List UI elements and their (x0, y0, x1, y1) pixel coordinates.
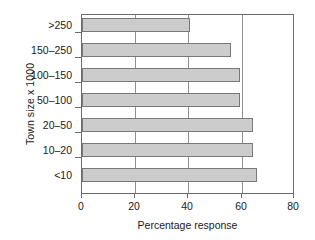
bar (82, 68, 240, 82)
y-tick-label: 50–100 (37, 93, 72, 107)
x-tick-label: 40 (167, 200, 207, 212)
plot-area (81, 14, 294, 194)
bar (82, 93, 240, 107)
x-tick-label: 60 (221, 200, 261, 212)
x-axis-tick (187, 194, 188, 198)
y-tick-label: 10–20 (43, 143, 72, 157)
x-axis-tick (81, 194, 82, 198)
bar-chart-figure: Town size x 1000 >250 150–250 100–150 50… (0, 0, 315, 240)
x-axis-title: Percentage response (81, 219, 294, 231)
bar (82, 143, 253, 157)
x-axis-tick (134, 194, 135, 198)
x-tick-label: 80 (273, 200, 313, 212)
x-axis-tick (293, 194, 294, 198)
bar (82, 118, 253, 132)
y-tick-label: 100–150 (31, 68, 72, 82)
y-tick-label: <10 (54, 168, 72, 182)
x-tick-label: 20 (114, 200, 154, 212)
y-tick-label: 20–50 (43, 118, 72, 132)
y-tick-label: 150–250 (31, 43, 72, 57)
gridline-60 (242, 15, 243, 193)
bar (82, 43, 231, 57)
y-axis-tick-labels: >250 150–250 100–150 50–100 20–50 10–20 … (10, 14, 76, 194)
x-axis-tick (241, 194, 242, 198)
bar (82, 18, 190, 32)
bar (82, 168, 257, 182)
x-tick-label: 0 (61, 200, 101, 212)
y-tick-label: >250 (48, 18, 72, 32)
